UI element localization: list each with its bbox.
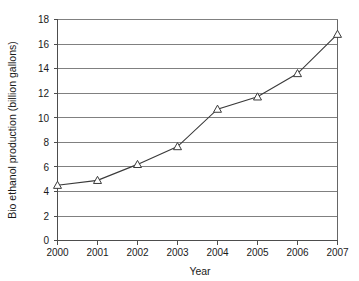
x-tick-label-2007: 2007 [326,247,349,258]
y-tick-label-10: 10 [38,113,50,124]
y-tick-label-12: 12 [38,88,50,99]
line-chart: 18 16 14 12 10 8 6 4 2 0 2000 2001 2002 … [0,0,359,281]
x-axis-title: Year [189,265,211,277]
x-tick-label-2000: 2000 [46,247,69,258]
y-tick-label-8: 8 [43,137,49,148]
x-tick-label-2004: 2004 [206,247,229,258]
x-tick-label-2005: 2005 [246,247,269,258]
x-tick-label-2001: 2001 [86,247,109,258]
y-tick-label-18: 18 [38,14,50,25]
x-tick-label-2003: 2003 [166,247,189,258]
chart-background [0,0,359,281]
y-tick-label-4: 4 [43,186,49,197]
x-tick-label-2002: 2002 [126,247,149,258]
y-tick-label-0: 0 [43,235,49,246]
y-tick-label-6: 6 [43,162,49,173]
y-tick-label-16: 16 [38,39,50,50]
y-tick-label-14: 14 [38,63,50,74]
y-tick-label-2: 2 [43,211,49,222]
y-axis-title: Bio ethanol production (billion gallons) [6,41,18,218]
chart-container: 18 16 14 12 10 8 6 4 2 0 2000 2001 2002 … [0,0,359,281]
x-tick-label-2006: 2006 [286,247,309,258]
